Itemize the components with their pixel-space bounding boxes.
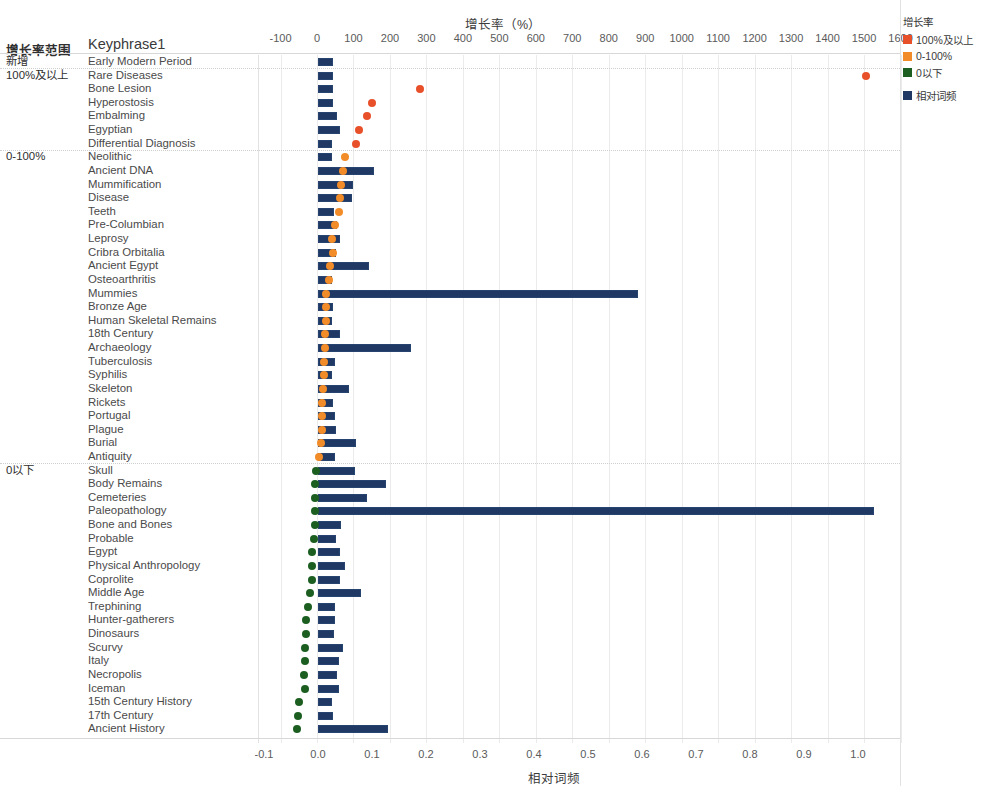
growth-rate-dot[interactable] — [328, 235, 336, 243]
frequency-bar[interactable] — [318, 467, 355, 475]
chart-row[interactable]: Plague — [0, 423, 900, 437]
chart-row[interactable]: Mummies — [0, 287, 900, 301]
chart-row[interactable]: Human Skeletal Remains — [0, 314, 900, 328]
growth-rate-dot[interactable] — [293, 725, 301, 733]
growth-rate-dot[interactable] — [329, 249, 337, 257]
growth-rate-dot[interactable] — [321, 344, 329, 352]
chart-row[interactable]: Dinosaurs — [0, 627, 900, 641]
growth-rate-dot[interactable] — [319, 385, 327, 393]
chart-row[interactable]: Disease — [0, 191, 900, 205]
chart-row[interactable]: Necropolis — [0, 668, 900, 682]
chart-row[interactable]: Physical Anthropology — [0, 559, 900, 573]
chart-row[interactable]: Teeth — [0, 205, 900, 219]
chart-row[interactable]: 新增Early Modern Period — [0, 55, 900, 69]
chart-row[interactable]: Iceman — [0, 682, 900, 696]
growth-rate-dot[interactable] — [318, 399, 326, 407]
chart-row[interactable]: 0以下Skull — [0, 464, 900, 478]
chart-row[interactable]: 15th Century History — [0, 695, 900, 709]
frequency-bar[interactable] — [318, 85, 333, 93]
growth-rate-dot[interactable] — [416, 85, 424, 93]
growth-rate-dot[interactable] — [312, 467, 320, 475]
chart-row[interactable]: 0-100%Neolithic — [0, 150, 900, 164]
growth-rate-dot[interactable] — [310, 535, 318, 543]
frequency-bar[interactable] — [318, 290, 638, 298]
chart-row[interactable]: Middle Age — [0, 586, 900, 600]
chart-row[interactable]: Cemeteries — [0, 491, 900, 505]
chart-row[interactable]: Syphilis — [0, 368, 900, 382]
frequency-bar[interactable] — [318, 685, 339, 693]
chart-row[interactable]: Burial — [0, 436, 900, 450]
chart-row[interactable]: Tuberculosis — [0, 355, 900, 369]
frequency-bar[interactable] — [318, 712, 333, 720]
growth-rate-dot[interactable] — [335, 208, 343, 216]
chart-row[interactable]: Osteoarthritis — [0, 273, 900, 287]
growth-rate-dot[interactable] — [311, 507, 319, 515]
growth-rate-dot[interactable] — [339, 167, 347, 175]
growth-rate-dot[interactable] — [308, 548, 316, 556]
chart-row[interactable]: Pre-Columbian — [0, 218, 900, 232]
growth-rate-dot[interactable] — [320, 358, 328, 366]
frequency-bar[interactable] — [318, 494, 367, 502]
growth-rate-dot[interactable] — [321, 330, 329, 338]
growth-rate-dot[interactable] — [301, 657, 309, 665]
frequency-bar[interactable] — [318, 657, 339, 665]
growth-rate-dot[interactable] — [304, 603, 312, 611]
growth-rate-dot[interactable] — [311, 480, 319, 488]
growth-rate-dot[interactable] — [318, 426, 326, 434]
growth-rate-dot[interactable] — [308, 562, 316, 570]
growth-rate-dot[interactable] — [300, 671, 308, 679]
frequency-bar[interactable] — [318, 589, 361, 597]
frequency-bar[interactable] — [318, 208, 334, 216]
growth-rate-dot[interactable] — [337, 181, 345, 189]
legend-item[interactable]: 100%及以上 — [903, 32, 981, 47]
growth-rate-dot[interactable] — [320, 371, 328, 379]
chart-row[interactable]: Ancient Egypt — [0, 259, 900, 273]
chart-row[interactable]: Egyptian — [0, 123, 900, 137]
frequency-bar[interactable] — [318, 181, 353, 189]
chart-row[interactable]: Hunter-gatherers — [0, 613, 900, 627]
growth-rate-dot[interactable] — [352, 140, 360, 148]
frequency-bar[interactable] — [318, 630, 334, 638]
chart-row[interactable]: 17th Century — [0, 709, 900, 723]
chart-row[interactable]: Embalming — [0, 109, 900, 123]
chart-row[interactable]: Skeleton — [0, 382, 900, 396]
chart-row[interactable]: Cribra Orbitalia — [0, 246, 900, 260]
growth-rate-dot[interactable] — [368, 99, 376, 107]
frequency-bar[interactable] — [318, 153, 332, 161]
chart-row[interactable]: Ancient DNA — [0, 164, 900, 178]
chart-row[interactable]: Differential Diagnosis — [0, 137, 900, 151]
frequency-bar[interactable] — [318, 72, 333, 80]
frequency-bar[interactable] — [318, 576, 340, 584]
frequency-bar[interactable] — [318, 644, 343, 652]
frequency-bar[interactable] — [318, 126, 340, 134]
frequency-bar[interactable] — [318, 99, 333, 107]
chart-row[interactable]: Bone Lesion — [0, 82, 900, 96]
growth-rate-dot[interactable] — [322, 290, 330, 298]
frequency-bar[interactable] — [318, 507, 874, 515]
growth-rate-dot[interactable] — [294, 712, 302, 720]
frequency-bar[interactable] — [318, 112, 337, 120]
growth-rate-dot[interactable] — [302, 630, 310, 638]
growth-rate-dot[interactable] — [862, 72, 870, 80]
chart-row[interactable]: Paleopathology — [0, 504, 900, 518]
growth-rate-dot[interactable] — [336, 194, 344, 202]
frequency-bar[interactable] — [318, 480, 386, 488]
chart-row[interactable]: 18th Century — [0, 327, 900, 341]
chart-row[interactable]: Coprolite — [0, 573, 900, 587]
frequency-bar[interactable] — [318, 140, 332, 148]
chart-row[interactable]: Mummification — [0, 178, 900, 192]
growth-rate-dot[interactable] — [315, 453, 323, 461]
growth-rate-dot[interactable] — [301, 644, 309, 652]
growth-rate-dot[interactable] — [302, 616, 310, 624]
growth-rate-dot[interactable] — [306, 589, 314, 597]
chart-row[interactable]: Portugal — [0, 409, 900, 423]
frequency-bar[interactable] — [318, 671, 337, 679]
chart-row[interactable]: Hyperostosis — [0, 96, 900, 110]
growth-rate-dot[interactable] — [355, 126, 363, 134]
growth-rate-dot[interactable] — [325, 276, 333, 284]
chart-row[interactable]: 100%及以上Rare Diseases — [0, 69, 900, 83]
chart-row[interactable]: Egypt — [0, 545, 900, 559]
frequency-bar[interactable] — [318, 603, 335, 611]
chart-row[interactable]: Italy — [0, 654, 900, 668]
frequency-bar[interactable] — [318, 616, 335, 624]
